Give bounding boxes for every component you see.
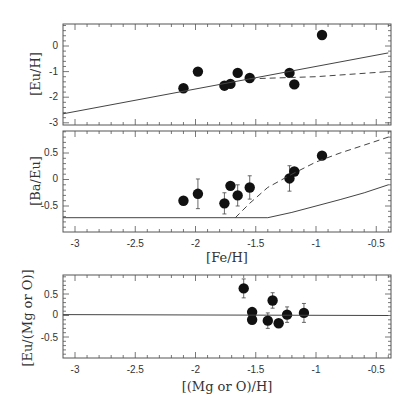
panel-ba-eu: 0.5 0 -0.5 [Ba/Eu] -3-2.5-2-1.5-1-0.5 [F… <box>28 131 391 265</box>
p3-ytick-1: 0 <box>52 309 58 320</box>
data-point <box>232 190 242 200</box>
data-point <box>193 189 203 199</box>
p1-ytick-0: 0 <box>52 40 58 51</box>
xtick-label: -1.5 <box>247 238 265 249</box>
p3-xlabel: [(Mg or O)/H] <box>182 379 273 394</box>
data-point <box>299 308 309 318</box>
data-point <box>282 309 292 319</box>
p1-ytick-2: -2 <box>49 91 58 102</box>
data-point <box>273 318 283 328</box>
p3-ytick-0: 0.5 <box>44 289 58 300</box>
xtick-label: -2.5 <box>127 238 145 249</box>
xtick-label: -1 <box>312 364 321 375</box>
chart-figure: 0 -1 -2 -3 [Eu/H] 0.5 0 -0.5 [Ba/Eu] -3-… <box>0 0 412 417</box>
p2-ytick-0: 0.5 <box>44 147 58 158</box>
data-point <box>289 79 299 89</box>
panel2-frame <box>63 131 391 232</box>
data-point <box>247 315 257 325</box>
data-point <box>284 68 294 78</box>
xtick-label: -0.5 <box>368 238 386 249</box>
model-dashed-line <box>235 137 388 218</box>
xtick-label: -2.5 <box>127 364 145 375</box>
xtick-label: -2 <box>191 238 200 249</box>
xtick-label: -2 <box>191 364 200 375</box>
panel2-data <box>63 137 388 218</box>
data-point <box>219 198 229 208</box>
panel2-ticks <box>63 131 391 232</box>
panel3-frame <box>63 275 391 358</box>
xtick-label: -3 <box>71 238 80 249</box>
data-point <box>193 66 203 76</box>
p1-ylabel: [Eu/H] <box>28 52 43 96</box>
xtick-label: -1.5 <box>247 364 265 375</box>
panel2-xtick-labels: -3-2.5-2-1.5-1-0.5 <box>71 238 386 249</box>
data-point <box>232 68 242 78</box>
model-solid-line <box>63 53 388 114</box>
data-point <box>245 182 255 192</box>
p3-ylabel: [Eu/(Mg or O)] <box>20 269 35 366</box>
data-point <box>225 181 235 191</box>
panel-eu-h: 0 -1 -2 -3 [Eu/H] <box>28 24 391 128</box>
p2-xlabel: [Fe/H] <box>206 250 248 265</box>
xtick-label: -0.5 <box>368 364 386 375</box>
p2-ytick-2: -0.5 <box>41 200 59 211</box>
p2-ylabel: [Ba/Eu] <box>28 156 43 206</box>
p1-ytick-1: -1 <box>49 66 58 77</box>
panel3-xtick-labels: -3-2.5-2-1.5-1-0.5 <box>71 364 386 375</box>
panel1-data <box>63 30 388 114</box>
data-point <box>178 196 188 206</box>
panel3-data <box>63 279 388 328</box>
xtick-label: -3 <box>71 364 80 375</box>
panel-eu-mgo: 0.5 0 -0.5 [Eu/(Mg or O)] -3-2.5-2-1.5-1… <box>20 269 391 394</box>
data-point <box>263 315 273 325</box>
data-point <box>239 283 249 293</box>
p2-ytick-1: 0 <box>52 173 58 184</box>
p1-ytick-3: -3 <box>49 117 58 128</box>
model-solid-line <box>63 315 388 316</box>
data-point <box>267 295 277 305</box>
xtick-label: -1 <box>312 238 321 249</box>
p3-ytick-2: -0.5 <box>41 332 59 343</box>
data-point <box>225 79 235 89</box>
panel3-ticks <box>63 275 391 358</box>
data-point <box>317 30 327 40</box>
